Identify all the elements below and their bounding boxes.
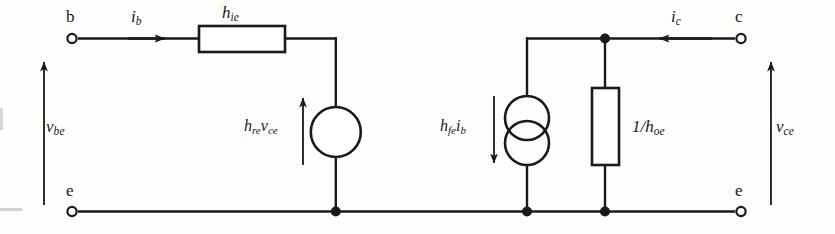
hoe-symbol: h: [645, 117, 654, 136]
terminal-label-e-right: e: [735, 182, 743, 199]
current-ic-subscript: c: [676, 15, 681, 27]
junction-bottom-resistor: [600, 207, 610, 217]
terminal-node-e-left[interactable]: [67, 207, 76, 216]
voltage-vce-subscript: ce: [784, 125, 794, 137]
resistor-hie-box: [199, 26, 285, 52]
output-loop-wires: [526, 37, 735, 212]
resistor-label-hie: hie: [222, 4, 239, 24]
current-ib-subscript: b: [136, 15, 142, 27]
voltage-vce-symbol: v: [776, 117, 784, 136]
vce-subscript: ce: [268, 124, 278, 136]
voltage-label-vce: vce: [776, 118, 794, 138]
hoe-prefix: 1/: [632, 117, 645, 136]
circuit-diagram: b c e e ib ic vbe vce hie hrevce hfeib 1…: [0, 0, 835, 234]
junction-bottom-current-source: [522, 207, 532, 217]
resistor-hie-body: [199, 26, 285, 52]
current-source-label-hfe-ib: hfeib: [440, 118, 466, 136]
junction-dots: [331, 34, 610, 217]
voltage-source-symbol: [311, 107, 361, 157]
resistor-hie-subscript: ie: [231, 11, 239, 23]
current-label-ib: ib: [131, 8, 142, 28]
current-source-circle-top: [505, 96, 549, 140]
hre-subscript: re: [252, 124, 261, 136]
terminal-label-c: c: [735, 8, 743, 25]
terminal-label-b: b: [66, 8, 75, 25]
scan-edge-artifact-upper: [0, 108, 3, 130]
terminal-label-e-left: e: [66, 182, 74, 199]
junction-bottom-mid-left: [331, 207, 341, 217]
circuit-schematic-svg: [0, 0, 835, 234]
hoe-subscript: oe: [654, 125, 665, 137]
resistor-hie-symbol: h: [222, 3, 231, 22]
resistor-label-1-over-hoe: 1/hoe: [632, 118, 665, 138]
current-source-circle-bottom: [505, 121, 549, 165]
hfe-subscript: fe: [448, 124, 456, 136]
resistor-hoe-box: [592, 88, 619, 165]
voltage-label-vbe: vbe: [46, 118, 65, 138]
voltage-vbe-subscript: be: [54, 125, 65, 137]
scan-edge-artifact-lower: [0, 208, 22, 211]
voltage-vbe-symbol: v: [46, 117, 54, 136]
input-loop-wires: [78, 37, 337, 212]
ib-subscript: b: [460, 124, 466, 136]
hre-symbol: h: [244, 117, 252, 134]
vce-symbol: v: [261, 117, 268, 134]
voltage-source-label-hre-vce: hrevce: [244, 118, 278, 136]
voltage-source-circle: [311, 107, 361, 157]
current-label-ic: ic: [671, 8, 681, 28]
current-source-symbol: [505, 96, 549, 165]
hfe-symbol: h: [440, 117, 448, 134]
junction-top-right: [600, 34, 610, 44]
terminal-node-e-right[interactable]: [736, 207, 745, 216]
resistor-hoe-body: [592, 88, 619, 165]
terminal-node-b[interactable]: [67, 34, 76, 43]
terminal-node-c[interactable]: [736, 34, 745, 43]
